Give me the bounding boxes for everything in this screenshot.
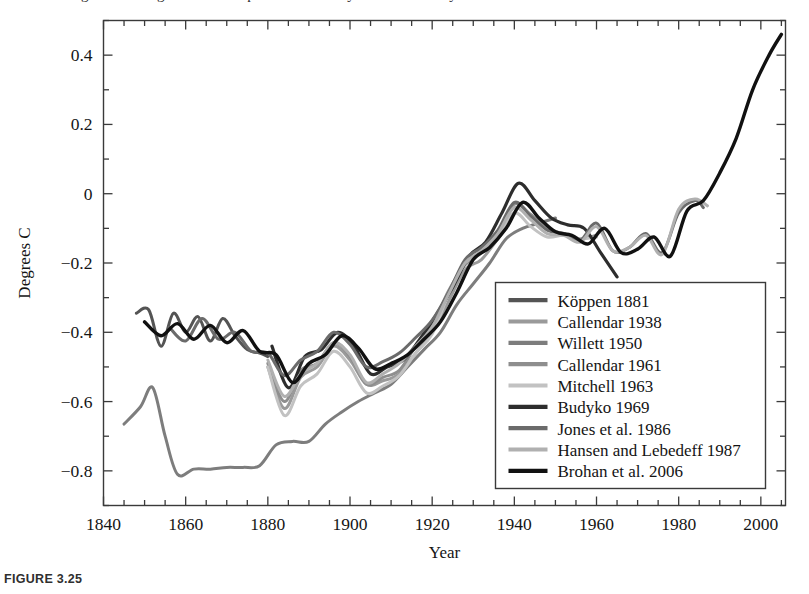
x-axis-label: Year <box>429 543 461 562</box>
x-axis-tick-labels: 184018601880190019201940196019802000 <box>86 514 779 534</box>
y-tick-label: −0.6 <box>61 392 93 412</box>
x-tick-label: 1980 <box>661 514 696 534</box>
x-tick-label: 1940 <box>497 514 532 534</box>
figure-caption: FIGURE 3.25 <box>4 572 304 592</box>
x-tick-label: 1960 <box>579 514 614 534</box>
legend-label-7: Hansen and Lebedeff 1987 <box>558 441 742 460</box>
legend-label-6: Jones et al. 1986 <box>558 420 671 439</box>
chart-legend: Köppen 1881Callendar 1938Willett 1950Cal… <box>496 283 766 489</box>
x-tick-label: 1880 <box>250 514 285 534</box>
x-tick-label: 1920 <box>415 514 450 534</box>
temperature-anomaly-chart: 0.40.20−0.2−0.4−0.6−0.8 1840186018801900… <box>0 0 809 594</box>
legend-label-5: Budyko 1969 <box>558 398 650 417</box>
y-tick-label: 0.4 <box>71 45 93 65</box>
legend-label-1: Callendar 1938 <box>558 313 662 332</box>
y-tick-label: −0.2 <box>61 253 93 273</box>
y-axis-label: Degrees C <box>15 227 34 298</box>
legend-label-0: Köppen 1881 <box>558 292 650 311</box>
legend-label-3: Callendar 1961 <box>558 356 662 375</box>
y-tick-label: −0.8 <box>61 461 93 481</box>
legend-label-4: Mitchell 1963 <box>558 377 654 396</box>
x-tick-label: 1840 <box>86 514 121 534</box>
x-tick-label: 1900 <box>333 514 368 534</box>
legend-label-8: Brohan et al. 2006 <box>558 462 684 481</box>
legend-label-2: Willett 1950 <box>558 334 643 353</box>
figure-container: Estimates of global average surface temp… <box>0 0 809 594</box>
y-tick-label: 0.2 <box>71 114 93 134</box>
x-tick-label: 2000 <box>743 514 778 534</box>
x-tick-label: 1860 <box>168 514 203 534</box>
y-tick-label: 0 <box>84 184 93 204</box>
y-axis-tick-labels: 0.40.20−0.2−0.4−0.6−0.8 <box>61 45 93 481</box>
y-tick-label: −0.4 <box>61 322 93 342</box>
